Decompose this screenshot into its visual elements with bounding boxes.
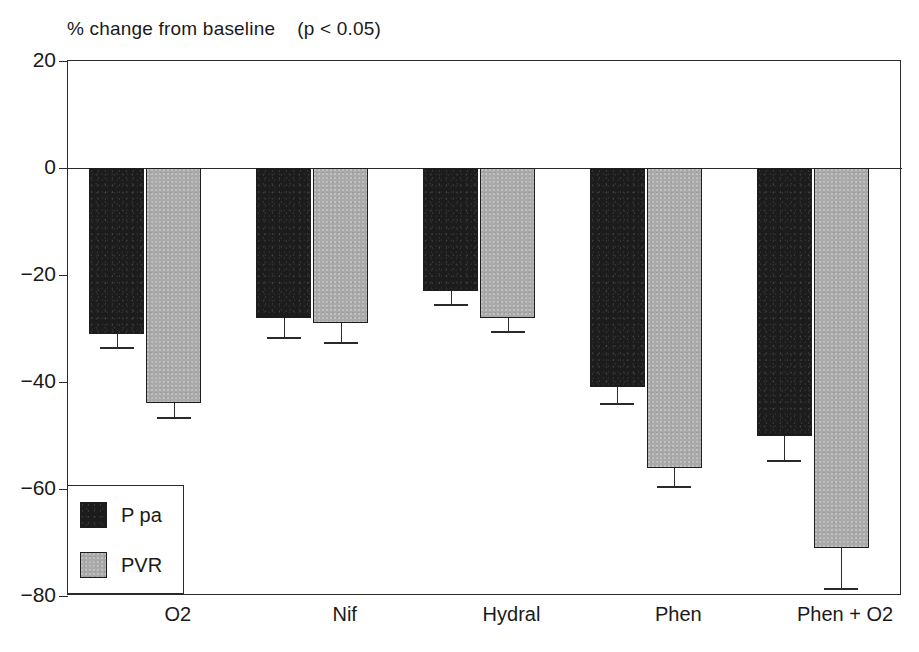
bar-phen-ppa	[590, 168, 645, 387]
error-bar-cap	[157, 417, 191, 419]
y-axis-tick	[59, 61, 68, 62]
chart-title: % change from baseline (p < 0.05)	[67, 18, 381, 40]
legend-swatch-icon	[80, 502, 107, 528]
y-axis-tick-label: −40	[0, 369, 56, 393]
error-bar-stem	[284, 318, 285, 337]
error-bar-stem	[784, 436, 785, 460]
y-axis-tick	[59, 275, 68, 276]
error-bar-cap	[767, 460, 801, 462]
y-axis: 200−20−40−60−80	[0, 60, 56, 595]
error-bar-stem	[451, 291, 452, 304]
plot-area	[67, 60, 901, 595]
x-axis-label-nif: Nif	[332, 603, 356, 626]
x-axis-label-phen-o2: Phen + O2	[797, 603, 893, 626]
y-axis-tick-label: 20	[0, 48, 56, 72]
chart-legend: P paPVR	[67, 485, 184, 594]
bar-phen-o2-ppa	[757, 168, 812, 436]
error-bar-stem	[617, 387, 618, 403]
error-bar-stem	[841, 548, 842, 588]
bar-hydral-pvr	[480, 168, 535, 318]
y-axis-tick-label: −80	[0, 583, 56, 607]
y-axis-tick-label: 0	[0, 155, 56, 179]
y-axis-tick	[59, 382, 68, 383]
error-bar-stem	[117, 334, 118, 347]
bar-o2-pvr	[146, 168, 201, 403]
bar-nif-pvr	[313, 168, 368, 323]
bar-nif-ppa	[256, 168, 311, 318]
legend-label: PVR	[121, 554, 162, 577]
bar-phen-pvr	[647, 168, 702, 468]
y-axis-tick	[59, 596, 68, 597]
error-bar-cap	[324, 342, 358, 344]
legend-label: P pa	[121, 504, 162, 527]
error-bar-cap	[434, 304, 468, 306]
error-bar-stem	[508, 318, 509, 331]
error-bar-cap	[267, 337, 301, 339]
error-bar-stem	[341, 323, 342, 342]
y-axis-tick	[59, 168, 68, 169]
error-bar-stem	[174, 403, 175, 416]
x-axis-label-hydral: Hydral	[483, 603, 541, 626]
bar-o2-ppa	[89, 168, 144, 334]
error-bar-cap	[824, 588, 858, 590]
error-bar-stem	[674, 468, 675, 487]
error-bar-cap	[491, 331, 525, 333]
legend-swatch-icon	[80, 552, 107, 578]
chart-figure: % change from baseline (p < 0.05) 200−20…	[0, 0, 919, 652]
legend-item-pvr: PVR	[80, 552, 162, 578]
bar-hydral-ppa	[423, 168, 478, 291]
bar-phen-o2-pvr	[814, 168, 869, 548]
legend-item-p-pa: P pa	[80, 502, 162, 528]
y-axis-tick-label: −20	[0, 262, 56, 286]
error-bar-cap	[657, 486, 691, 488]
x-axis: O2NifHydralPhenPhen + O2	[67, 603, 901, 639]
error-bar-cap	[100, 347, 134, 349]
x-axis-label-o2: O2	[165, 603, 192, 626]
x-axis-label-phen: Phen	[655, 603, 702, 626]
error-bar-cap	[600, 403, 634, 405]
y-axis-tick-label: −60	[0, 476, 56, 500]
